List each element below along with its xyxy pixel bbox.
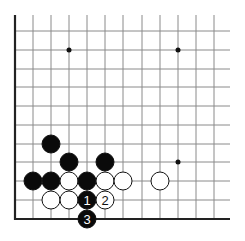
black-stone (24, 172, 42, 190)
black-stone (42, 172, 60, 190)
stone-disc (60, 172, 78, 190)
black-stone (96, 153, 114, 171)
move-number: 2 (101, 193, 108, 208)
white-stone (114, 172, 132, 190)
move-number: 1 (83, 193, 90, 208)
stone-disc (24, 172, 42, 190)
hoshi-point (176, 160, 181, 165)
stone-disc (42, 191, 60, 209)
white-stone (42, 191, 60, 209)
stone-disc (151, 172, 169, 190)
black-stone-1: 1 (78, 191, 96, 209)
white-stone-2: 2 (96, 191, 114, 209)
black-stone-3: 3 (78, 210, 96, 228)
black-stone (78, 172, 96, 190)
stone-disc (60, 191, 78, 209)
hoshi-point (176, 48, 181, 53)
stone-disc (78, 172, 96, 190)
white-stone (60, 172, 78, 190)
white-stone (60, 191, 78, 209)
black-stone (60, 153, 78, 171)
stone-disc (60, 153, 78, 171)
go-board: 123 (0, 0, 245, 241)
stone-disc (114, 172, 132, 190)
white-stone (151, 172, 169, 190)
stone-disc (96, 153, 114, 171)
move-number: 3 (83, 212, 90, 227)
stone-disc (42, 172, 60, 190)
white-stone (96, 172, 114, 190)
hoshi-point (67, 48, 72, 53)
black-stone (42, 135, 60, 153)
stone-disc (42, 135, 60, 153)
stone-disc (96, 172, 114, 190)
